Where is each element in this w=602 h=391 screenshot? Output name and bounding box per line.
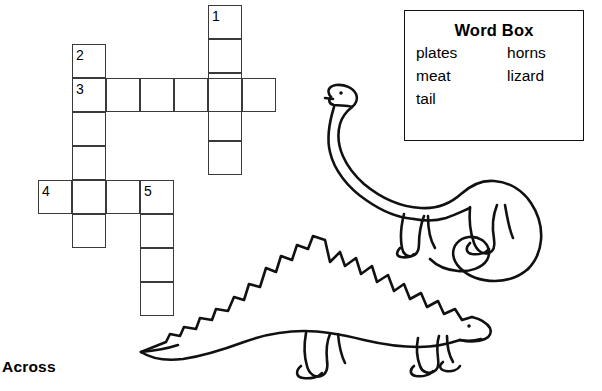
crossword-cell[interactable] [174, 78, 208, 112]
word-box-word: lizard [507, 65, 583, 86]
across-heading: Across [2, 358, 56, 376]
crossword-cell[interactable] [72, 78, 106, 112]
word-box: Word Box plateshornsmeatlizardtail [404, 10, 584, 141]
crossword-cell[interactable] [140, 214, 174, 248]
crossword-cell[interactable] [208, 5, 242, 39]
crossword-cell[interactable] [208, 39, 242, 73]
crossword-cell[interactable] [38, 180, 72, 214]
word-box-row: plateshorns [416, 42, 583, 63]
word-box-row: meatlizard [416, 65, 583, 86]
crossword-cell[interactable] [106, 78, 140, 112]
crossword-cell[interactable] [72, 44, 106, 78]
crossword-cell[interactable] [72, 180, 106, 214]
crossword-cell[interactable] [140, 78, 174, 112]
crossword-cell[interactable] [208, 141, 242, 175]
word-box-word: horns [507, 42, 583, 63]
word-box-word-list: plateshornsmeatlizardtail [405, 42, 583, 109]
crossword-cell[interactable] [106, 180, 140, 214]
crossword-cell[interactable] [140, 180, 174, 214]
crossword-grid: 12345 [0, 0, 300, 340]
word-box-word [507, 88, 583, 109]
crossword-cell[interactable] [242, 78, 276, 112]
worksheet-page: 12345 [0, 0, 602, 391]
word-box-row: tail [416, 88, 583, 109]
crossword-cell[interactable] [208, 78, 242, 112]
crossword-cell[interactable] [72, 214, 106, 248]
crossword-cell[interactable] [140, 282, 174, 316]
crossword-cell[interactable] [208, 107, 242, 141]
word-box-title: Word Box [405, 21, 583, 40]
word-box-word: plates [416, 42, 507, 63]
crossword-cell[interactable] [140, 248, 174, 282]
word-box-word: meat [416, 65, 507, 86]
crossword-cell[interactable] [72, 146, 106, 180]
crossword-cell[interactable] [72, 112, 106, 146]
word-box-word: tail [416, 88, 507, 109]
